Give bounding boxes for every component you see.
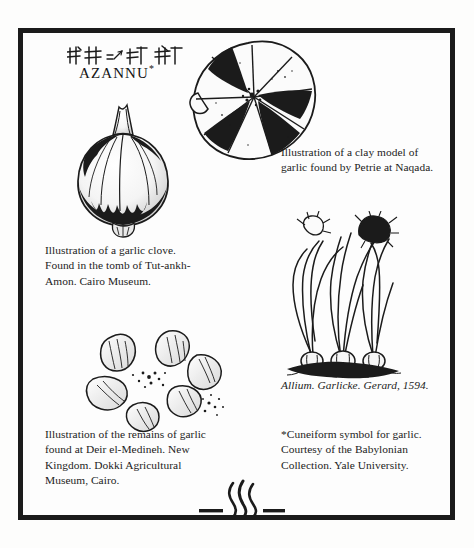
plate-frame: AZANNU* — [18, 28, 455, 520]
plate-inner: AZANNU* — [23, 33, 450, 515]
footnote-cuneiform-credit: *Cuneiform symbol for garlic. Courtesy o… — [281, 427, 439, 473]
caption-gerard-allium-1594: Allium. Garlicke. Gerard, 1594. — [281, 378, 436, 393]
headword-azannu: AZANNU* — [79, 63, 155, 82]
ornament-rule-left — [199, 509, 223, 512]
caption-garlic-remains-deir-el-medineh: Illustration of the remains of garlic fo… — [45, 427, 207, 489]
headword-footnote-marker: * — [149, 63, 155, 74]
ornament-rule-right — [263, 509, 285, 512]
headword-transliteration: AZANNU — [79, 65, 149, 81]
plate-page: AZANNU* — [0, 0, 474, 548]
flourish-three-flames-ornament — [199, 479, 285, 519]
figure-gerard-allium-1594 — [281, 211, 405, 379]
figure-garlic-clove-tutankhamon — [57, 101, 197, 241]
caption-clay-model-naqada: Illustration of a clay model of garlic f… — [281, 145, 441, 176]
caption-garlic-clove-tutankhamon: Illustration of a garlic clove. Found in… — [45, 243, 205, 289]
figure-garlic-remains-deir-el-medineh — [77, 329, 237, 439]
